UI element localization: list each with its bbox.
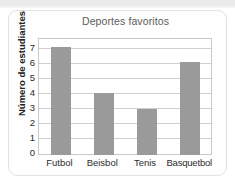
chart-page: Deportes favoritos Número de estudiantes… bbox=[0, 0, 235, 189]
y-tick-label-5: 5 bbox=[19, 73, 35, 83]
y-tick-label-6: 6 bbox=[19, 58, 35, 68]
y-tick-label-2: 2 bbox=[19, 118, 35, 128]
x-tick-label-tenis: Tenis bbox=[124, 157, 167, 168]
bar-beisbol[interactable] bbox=[94, 93, 114, 155]
bar-slot-futbol bbox=[39, 39, 82, 155]
x-tick-label-basquetbol: Basquetbol bbox=[166, 157, 212, 168]
y-tick-label-1: 1 bbox=[19, 133, 35, 143]
bar-slot-beisbol bbox=[82, 39, 125, 155]
x-tick-label-futbol: Futbol bbox=[38, 157, 81, 168]
y-tick-label-0: 0 bbox=[19, 148, 35, 158]
y-tick-label-4: 4 bbox=[19, 88, 35, 98]
bar-futbol[interactable] bbox=[51, 47, 71, 155]
y-tick-label-7: 7 bbox=[19, 43, 35, 53]
y-axis-ticks: 7 6 5 4 3 2 1 0 bbox=[18, 38, 35, 155]
bars-layer bbox=[39, 39, 211, 155]
scan-artifact-band-secondary bbox=[0, 6, 235, 8]
x-tick-label-beisbol: Beisbol bbox=[81, 157, 124, 168]
chart-title: Deportes favoritos bbox=[38, 15, 213, 27]
x-axis-labels: Futbol Beisbol Tenis Basquetbol bbox=[38, 157, 212, 168]
bar-basquetbol[interactable] bbox=[180, 62, 200, 155]
bar-tenis[interactable] bbox=[137, 109, 157, 155]
y-tick-label-3: 3 bbox=[19, 103, 35, 113]
bar-slot-tenis bbox=[125, 39, 168, 155]
bar-slot-basquetbol bbox=[168, 39, 211, 155]
